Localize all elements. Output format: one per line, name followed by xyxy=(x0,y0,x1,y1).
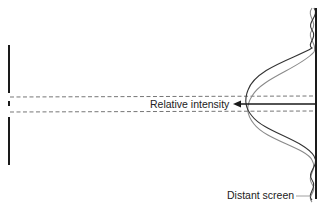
beam-edge-bottom xyxy=(10,111,315,112)
relative-intensity-label: Relative intensity xyxy=(150,98,230,110)
intensity-curve-secondary xyxy=(248,8,315,202)
intensity-curves xyxy=(246,8,316,202)
diffraction-diagram: Relative intensity Distant screen xyxy=(0,0,326,210)
arrowhead-icon xyxy=(233,101,241,108)
distant-screen-label: Distant screen xyxy=(227,189,294,201)
beam-edge-top xyxy=(10,96,315,97)
